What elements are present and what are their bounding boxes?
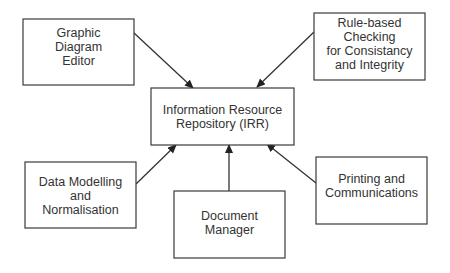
- node-label-line: Normalisation: [42, 203, 118, 217]
- arrow-line: [134, 33, 193, 88]
- node-label-line: Information Resource: [163, 103, 283, 117]
- node-label-line: Checking: [343, 30, 395, 44]
- arrow-print-to-irr: [267, 144, 316, 183]
- nodes: GraphicDiagramEditorRule-basedCheckingfo…: [23, 13, 427, 258]
- node-label-line: Rule-based: [338, 16, 402, 30]
- diagram-canvas: GraphicDiagramEditorRule-basedCheckingfo…: [0, 0, 450, 273]
- node-gde: GraphicDiagramEditor: [23, 19, 134, 85]
- node-irr: Information ResourceRepository (IRR): [151, 88, 294, 145]
- arrow-line: [257, 32, 314, 87]
- node-label-line: Manager: [205, 223, 254, 237]
- arrow-dm-to-irr: [136, 145, 176, 184]
- arrow-gde-to-irr: [134, 33, 193, 88]
- node-print: Printing andCommunications: [316, 157, 427, 224]
- node-label-line: and Integrity: [335, 58, 405, 72]
- arrow-line: [267, 144, 316, 183]
- node-label-line: Printing and: [338, 172, 405, 186]
- node-label-line: Document: [201, 209, 258, 223]
- node-label-line: Diagram: [55, 40, 102, 54]
- node-label-line: Editor: [62, 54, 95, 68]
- arrow-line: [136, 145, 176, 184]
- arrow-rule-to-irr: [257, 32, 314, 87]
- node-label-line: Graphic: [57, 26, 101, 40]
- node-label-line: Communications: [325, 186, 418, 200]
- node-label-line: and: [70, 189, 91, 203]
- node-dm: Data ModellingandNormalisation: [25, 162, 136, 228]
- node-label-line: Repository (IRR): [176, 117, 269, 131]
- node-rule: Rule-basedCheckingfor Consistancyand Int…: [314, 13, 425, 80]
- node-doc: DocumentManager: [174, 191, 285, 258]
- node-label-line: Data Modelling: [39, 175, 122, 189]
- node-label-line: for Consistancy: [326, 44, 413, 58]
